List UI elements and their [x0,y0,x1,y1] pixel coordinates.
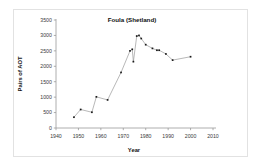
data-point-marker [165,53,167,55]
data-point-marker [129,50,131,52]
chart-canvas: 0500100015002000250030003500194019501960… [0,0,264,167]
y-tick-label: 1500 [40,79,52,85]
x-axis-title: Year [128,147,141,153]
x-tick-label: 1990 [162,133,174,139]
y-tick-label: 2500 [40,48,52,54]
data-point-marker [80,109,82,111]
data-point-marker [138,35,140,37]
data-point-marker [172,59,174,61]
data-line [74,35,191,117]
data-point-marker [91,111,93,113]
x-tick-label: 1980 [140,133,152,139]
data-point-marker [156,49,158,51]
y-tick-label: 0 [49,125,52,131]
x-tick-label: 1960 [95,133,107,139]
data-point-marker [190,56,192,58]
data-point-marker [140,38,142,40]
x-tick-label: 1950 [73,133,85,139]
chart-figure: 0500100015002000250030003500194019501960… [0,0,264,167]
data-point-marker [158,49,160,51]
data-point-marker [145,44,147,46]
data-point-marker [133,61,135,63]
x-tick-label: 1940 [50,133,62,139]
data-point-marker [136,35,138,37]
data-series-group [73,35,191,118]
data-point-marker [107,99,109,101]
y-tick-label: 500 [43,109,52,115]
data-point-marker [120,72,122,74]
axes-group: 0500100015002000250030003500194019501960… [40,17,219,139]
y-tick-label: 3500 [40,17,52,23]
y-axis-title: Pairs of AOT [17,56,23,91]
data-point-marker [73,116,75,118]
data-point-marker [96,96,98,98]
data-point-marker [152,48,154,50]
data-point-marker [131,48,133,50]
x-tick-label: 2000 [185,133,197,139]
chart-title: Foula (Shetland) [108,16,156,23]
x-tick-label: 2010 [207,133,219,139]
y-tick-label: 1000 [40,94,52,100]
y-tick-label: 3000 [40,32,52,38]
y-tick-label: 2000 [40,63,52,69]
x-tick-label: 1970 [118,133,130,139]
